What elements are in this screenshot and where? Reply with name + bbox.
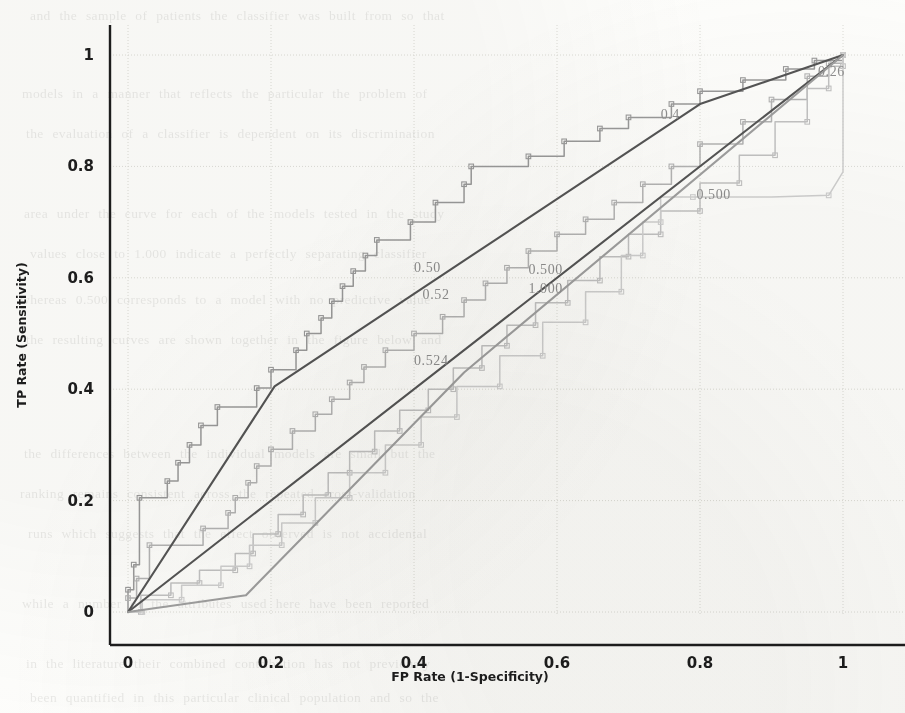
roc-curves [126, 53, 846, 615]
curve-value-label: 0.52 [423, 287, 450, 302]
tick-labels: 00.20.40.60.8100.20.40.60.81 [67, 46, 848, 672]
y-tick-label: 0.4 [67, 380, 94, 398]
curve-value-label: 1.000 [528, 281, 563, 296]
curve-value-label: 0.4 [661, 107, 680, 122]
x-tick-label: 0.2 [258, 654, 285, 672]
y-tick-label: 0.8 [67, 157, 94, 175]
y-tick-label: 0 [84, 603, 94, 621]
curve-value-label: 0.500 [528, 262, 563, 277]
gridlines [110, 25, 905, 615]
roc-curve-diagonal-lower-dark [128, 55, 843, 612]
y-tick-label: 1 [84, 46, 94, 64]
curve-value-label: 0.524 [414, 353, 449, 368]
curve-value-label: 0.50 [414, 260, 441, 275]
x-tick-label: 0.8 [687, 654, 714, 672]
y-tick-label: 0.6 [67, 269, 94, 287]
y-axis-title: TP Rate (Sensitivity) [14, 262, 29, 407]
x-tick-label: 1 [838, 654, 848, 672]
roc-plot-svg: 00.20.40.60.8100.20.40.60.81 0.260.40.50… [0, 0, 905, 713]
curve-value-labels: 0.260.40.5000.5001.0000.500.520.524 [414, 64, 845, 368]
roc-chart: 00.20.40.60.8100.20.40.60.81 0.260.40.50… [0, 0, 905, 713]
curve-value-label: 0.500 [696, 187, 731, 202]
curve-value-label: 0.26 [818, 64, 845, 79]
y-tick-label: 0.2 [67, 492, 94, 510]
x-tick-label: 0 [123, 654, 133, 672]
x-axis-title: FP Rate (1-Specificity) [391, 669, 548, 684]
